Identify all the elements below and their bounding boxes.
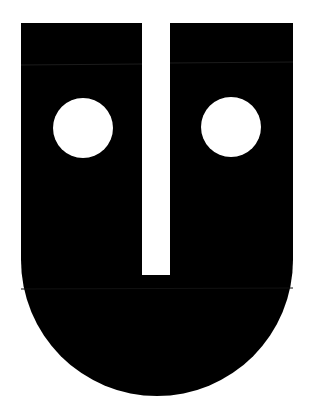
right-eye-circle — [201, 97, 261, 157]
u-face-svg — [0, 0, 310, 417]
nose-slit — [142, 20, 170, 275]
face-graphic — [0, 0, 310, 417]
left-eye-circle — [53, 98, 113, 158]
